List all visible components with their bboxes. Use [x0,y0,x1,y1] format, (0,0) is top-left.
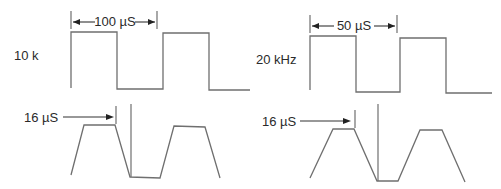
panel-left: 10 k 100 µS 16 µS [14,11,250,178]
trapezoid-wave-20khz [310,129,465,182]
period-dimension-100us: 100 µS [71,11,157,29]
trapezoid-wave-10k [71,125,220,178]
rise-time-label-16us: 16 µS [262,114,297,129]
period-label-100us: 100 µS [94,14,136,29]
rise-time-label-16us: 16 µS [24,110,59,125]
arrow-left-icon [312,23,319,29]
rise-time-annotation-left: 16 µS [24,104,131,177]
square-wave-20khz [310,36,492,93]
period-dimension-50us: 50 µS [310,15,397,33]
frequency-label-20khz: 20 kHz [256,52,296,67]
waveform-diagram: 10 k 100 µS 16 µS 20 kHz [0,0,501,189]
square-wave-10k [71,32,250,90]
arrow-right-icon [388,23,395,29]
arrow-right-icon [106,114,114,120]
arrow-right-icon [343,118,351,124]
panel-right: 20 kHz 50 µS 16 µS [256,15,492,182]
period-label-50us: 50 µS [337,18,372,33]
arrow-left-icon [73,19,80,25]
arrow-right-icon [148,19,155,25]
frequency-label-10k: 10 k [14,48,39,63]
